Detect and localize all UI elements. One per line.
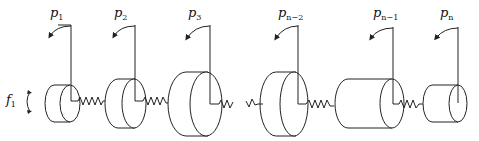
mass-pn-1: pn−1 [335, 5, 404, 128]
torque-arrow-icon [276, 26, 298, 38]
mass-label: pn [440, 5, 453, 22]
mass-p3: p3 [168, 5, 222, 136]
mass-pn-2: pn−2 [260, 5, 308, 136]
mass-label: p2 [114, 5, 127, 22]
torque-arrow-icon [436, 28, 458, 38]
spring-mass-diagram: f1 p1 p2 p3 pn [0, 0, 479, 141]
torque-arrow-icon [50, 26, 71, 36]
torque-arrow-icon [114, 26, 135, 36]
force-f1: f1 [5, 90, 32, 114]
mass-label: p1 [50, 5, 63, 22]
torque-arrow-icon [371, 28, 393, 38]
rotation-arrow-icon [27, 92, 30, 112]
mass-p2: p2 [105, 5, 146, 128]
force-label: f1 [5, 92, 16, 109]
torque-arrow-icon [187, 26, 210, 38]
mass-pn: pn [423, 5, 467, 122]
mass-label: pn−2 [278, 5, 303, 22]
mass-label: p3 [188, 5, 201, 22]
mass-label: pn−1 [373, 5, 398, 22]
mass-p1: p1 [45, 5, 80, 122]
